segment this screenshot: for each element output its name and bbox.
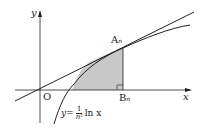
equation-suffix: ln x bbox=[85, 109, 102, 118]
diagram: y x O An Bn y= 1 n2 ln x bbox=[0, 0, 201, 134]
point-a-label: An bbox=[111, 35, 122, 45]
point-b-label: Bn bbox=[119, 93, 130, 103]
y-axis-arrow-icon bbox=[38, 10, 42, 17]
equation-prefix: y= bbox=[61, 109, 74, 118]
equation-fraction: 1 n2 bbox=[76, 106, 83, 121]
denominator-exponent: 2 bbox=[80, 113, 83, 118]
point-b-subscript: n bbox=[126, 95, 130, 102]
origin-label: O bbox=[43, 92, 51, 102]
fraction-denominator: n2 bbox=[76, 114, 83, 121]
point-a-subscript: n bbox=[118, 37, 122, 44]
x-axis-label: x bbox=[183, 92, 189, 102]
y-axis-label: y bbox=[31, 8, 37, 18]
curve-equation: y= 1 n2 ln x bbox=[61, 106, 101, 121]
